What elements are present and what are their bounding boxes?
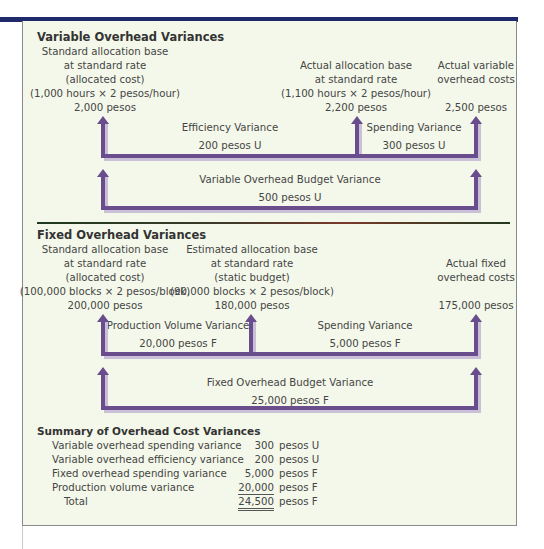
summary-row-label: Variable overhead spending variance	[52, 439, 242, 453]
summary-row-amount: 20,000	[238, 481, 274, 495]
summary-row-unit: pesos F	[279, 495, 318, 509]
summary-row-label: Total	[64, 495, 88, 509]
summary-row-label: Variable overhead efficiency variance	[52, 453, 244, 467]
arrow-up-icon	[470, 367, 482, 375]
arrow-up-icon	[470, 169, 482, 177]
summary-row-unit: pesos F	[279, 481, 318, 495]
arrow-up-icon	[470, 116, 482, 124]
arrow-up-icon	[470, 314, 482, 322]
arrow-up-icon	[97, 314, 109, 322]
summary-row-label: Production volume variance	[52, 481, 194, 495]
summary-row-label: Fixed overhead spending variance	[52, 467, 227, 481]
arrow-up-icon	[351, 116, 363, 124]
summary-row-amount: 24,500	[238, 495, 274, 511]
summary-title: Summary of Overhead Cost Variances	[37, 425, 260, 437]
arrow-up-icon	[97, 367, 109, 375]
arrow-up-icon	[97, 116, 109, 124]
summary-row-amount: 5,000	[245, 467, 274, 480]
summary-row-unit: pesos U	[279, 453, 319, 467]
arrow-up-icon	[245, 314, 257, 322]
arrow-up-icon	[97, 169, 109, 177]
summary-row-amount: 300	[255, 439, 274, 452]
summary-row-unit: pesos F	[279, 467, 318, 481]
summary-row-amount: 200	[255, 453, 274, 466]
summary-row-unit: pesos U	[279, 439, 319, 453]
